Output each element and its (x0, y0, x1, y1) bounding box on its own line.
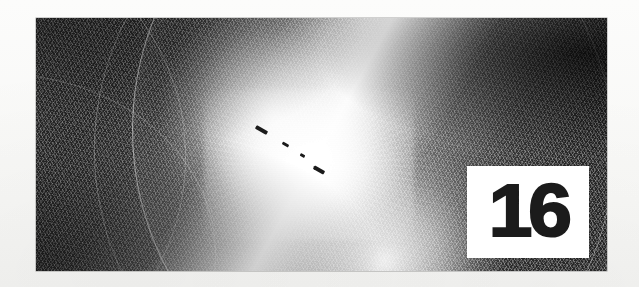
chapter-number-text: 16 (489, 174, 568, 251)
chapter-number-badge: 16 (467, 166, 589, 258)
